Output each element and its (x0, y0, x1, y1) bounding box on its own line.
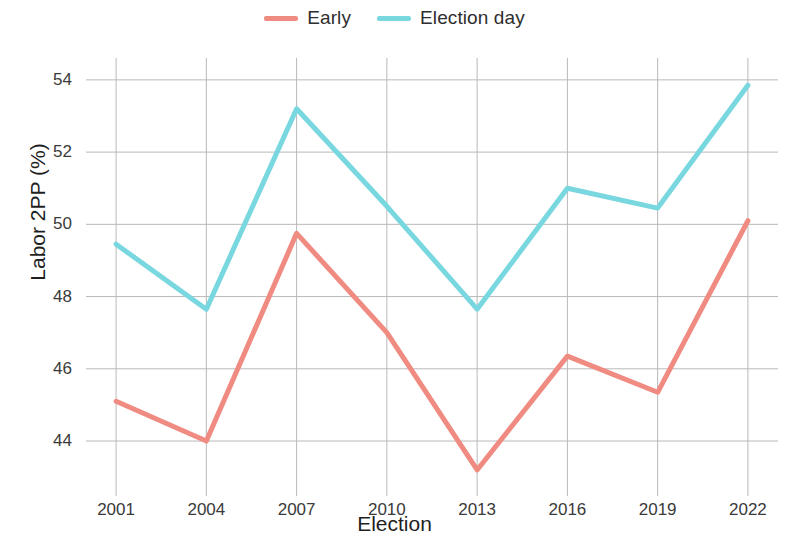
series-line-election-day (116, 85, 748, 309)
plot-svg (0, 0, 789, 544)
plot-area: 444648505254 200120042007201020132016201… (0, 0, 789, 544)
gridlines (86, 58, 778, 496)
y-tick-label: 54 (28, 70, 72, 90)
y-tick-label: 46 (28, 359, 72, 379)
line-chart: Early Election day 444648505254 20012004… (0, 0, 789, 544)
series-lines (116, 85, 748, 470)
y-axis-title: Labor 2PP (%) (26, 92, 50, 332)
x-axis-title: Election (0, 512, 789, 536)
y-tick-label: 44 (28, 431, 72, 451)
